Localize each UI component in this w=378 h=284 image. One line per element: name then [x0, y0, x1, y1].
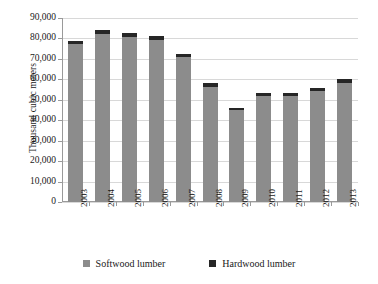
legend-label-hardwood: Hardwood lumber [222, 258, 295, 269]
x-tick-mark [89, 202, 90, 206]
legend-item-softwood: Softwood lumber [83, 258, 166, 269]
y-tick-label: 10,000 [0, 177, 56, 187]
x-tick-mark [304, 202, 305, 206]
y-tick-label: 20,000 [0, 156, 56, 166]
y-tick-label: 90,000 [0, 13, 56, 23]
x-tick-label: 2008 [215, 167, 224, 207]
hardwood-swatch-icon [209, 260, 216, 267]
legend-item-hardwood: Hardwood lumber [209, 258, 295, 269]
x-tick-label: 2010 [268, 167, 277, 207]
x-tick-label: 2012 [322, 167, 331, 207]
x-tick-label: 2007 [188, 167, 197, 207]
y-tick-label: 80,000 [0, 33, 56, 43]
x-tick-mark [331, 202, 332, 206]
y-tick-label: 70,000 [0, 54, 56, 64]
softwood-swatch-icon [83, 260, 90, 267]
x-tick-mark [358, 202, 359, 206]
y-tick-label: 0 [0, 197, 56, 207]
bar-chart: Thousand cubic meters 90,00080,00070,000… [0, 0, 378, 284]
y-tick-mark [58, 202, 62, 203]
x-tick-label: 2004 [107, 167, 116, 207]
x-tick-label: 2003 [80, 167, 89, 207]
y-tick-label: 60,000 [0, 74, 56, 84]
x-tick-label: 2013 [349, 167, 358, 207]
chart-legend: Softwood lumber Hardwood lumber [0, 258, 378, 269]
x-tick-label: 2011 [295, 167, 304, 207]
x-tick-mark [277, 202, 278, 206]
y-tick-label: 40,000 [0, 115, 56, 125]
x-tick-label: 2006 [161, 167, 170, 207]
x-tick-label: 2005 [134, 167, 143, 207]
legend-label-softwood: Softwood lumber [96, 258, 166, 269]
y-tick-label: 30,000 [0, 136, 56, 146]
y-tick-label: 50,000 [0, 95, 56, 105]
x-tick-mark [250, 202, 251, 206]
x-tick-label: 2009 [241, 167, 250, 207]
